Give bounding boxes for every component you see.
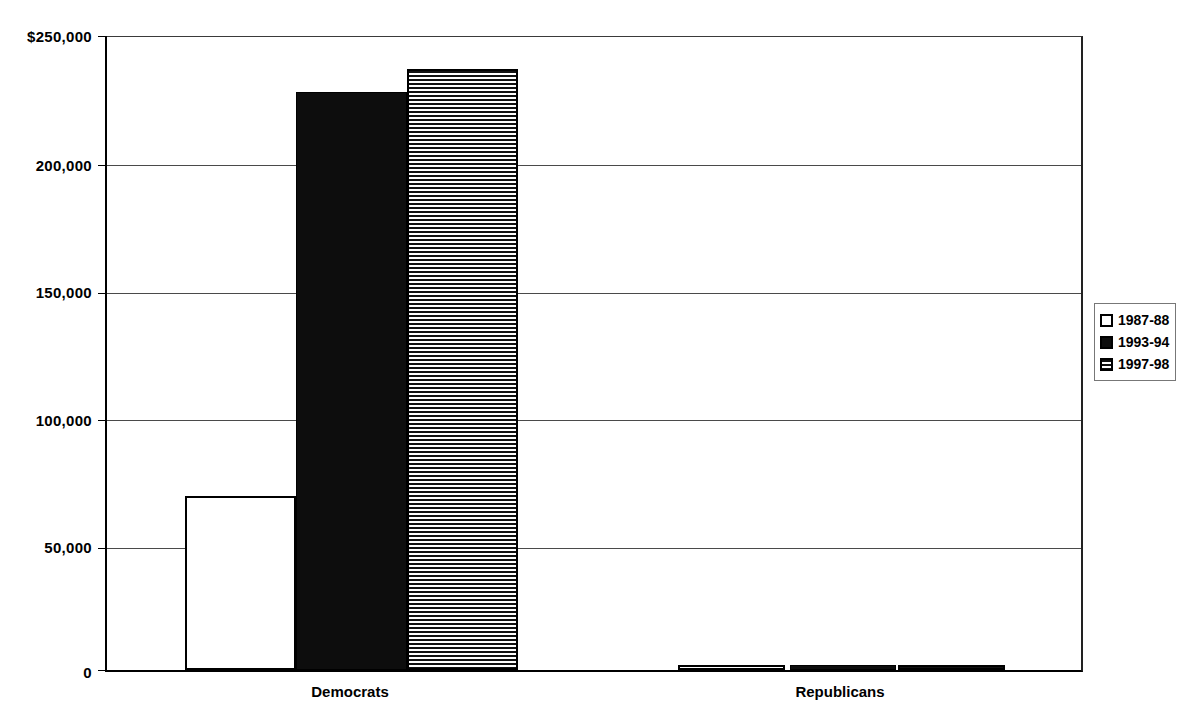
- y-axis-label-150000: 150,000: [0, 284, 92, 301]
- y-axis-label-100000: 100,000: [0, 412, 92, 429]
- legend-item-1993-94: 1993-94: [1100, 331, 1169, 353]
- y-axis-tick-0: [98, 670, 107, 671]
- black-square-icon: [1100, 336, 1113, 349]
- bar-republicans-1987-88: [678, 665, 785, 670]
- bar-chart: $250,000 200,000 150,000 100,000 50,000 …: [0, 0, 1202, 719]
- y-axis-tick-200000: [98, 165, 107, 166]
- y-axis-tick-150000: [98, 293, 107, 294]
- y-axis-label-50000: 50,000: [0, 539, 92, 556]
- striped-square-icon: [1100, 358, 1113, 371]
- y-axis-tick-50000: [98, 548, 107, 549]
- white-square-icon: [1100, 314, 1113, 327]
- legend-item-1997-98: 1997-98: [1100, 353, 1169, 375]
- legend-label-1987-88: 1987-88: [1118, 312, 1169, 328]
- y-axis-tick-250000: [98, 36, 107, 37]
- gridline-150000: [107, 293, 1081, 294]
- x-axis-label-republicans: Republicans: [735, 683, 945, 700]
- legend-label-1993-94: 1993-94: [1118, 334, 1169, 350]
- bar-democrats-1993-94: [296, 92, 407, 670]
- legend-item-1987-88: 1987-88: [1100, 309, 1169, 331]
- y-axis-label-200000: 200,000: [0, 157, 92, 174]
- bar-republicans-1997-98: [898, 665, 1005, 670]
- bar-democrats-1987-88: [185, 496, 296, 670]
- legend: 1987-88 1993-94 1997-98: [1094, 303, 1176, 381]
- gridline-200000: [107, 165, 1081, 166]
- plot-area: [105, 36, 1083, 672]
- legend-label-1997-98: 1997-98: [1118, 356, 1169, 372]
- y-axis-label-0: 0: [0, 664, 92, 681]
- y-axis-label-250000: $250,000: [0, 28, 92, 45]
- bar-democrats-1997-98: [407, 69, 518, 670]
- x-axis-label-democrats: Democrats: [245, 683, 455, 700]
- y-axis-tick-100000: [98, 420, 107, 421]
- gridline-100000: [107, 420, 1081, 421]
- bar-republicans-1993-94: [790, 665, 896, 670]
